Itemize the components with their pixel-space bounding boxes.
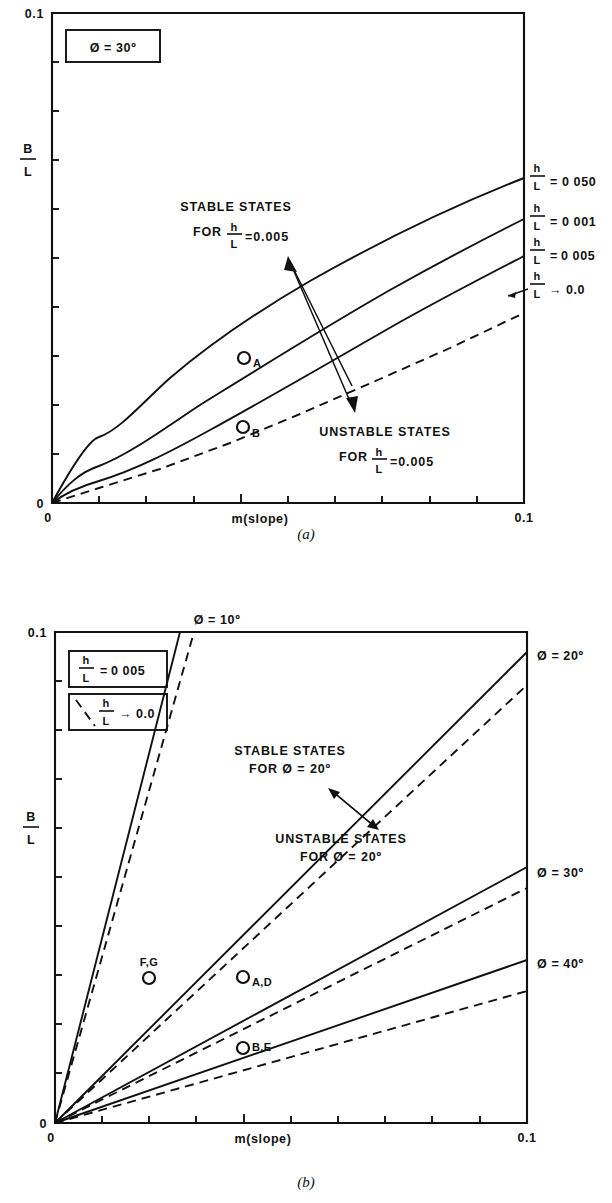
data-point-label-ad: A,D (252, 976, 272, 988)
annot-unstable-den: L (375, 463, 382, 475)
panel-a-annotation-unstable: UNSTABLE STATES FOR h L =0.005 (290, 262, 451, 475)
panel-b-axes (55, 632, 527, 1123)
annot-b-unstable-arrow (332, 791, 374, 826)
legend2-den: L (102, 715, 109, 727)
data-point-marker (237, 1042, 249, 1054)
curve-phi40-solid (55, 960, 527, 1123)
panel-b-curve-label-phi20: Ø = 20º (537, 649, 584, 663)
panel-b-xtick-max: 0.1 (517, 1131, 536, 1145)
curve-label-1-num: h (533, 202, 540, 214)
panel-a-ytick-min: 0 (36, 497, 44, 511)
panel-b-ylabel-den: L (27, 833, 35, 847)
legend2-value: 0.0 (136, 707, 155, 721)
curve-phi10-dashed (55, 632, 194, 1123)
panel-a-annotation-stable: STABLE STATES FOR h L =0.005 (180, 200, 352, 386)
legend2-rel: → (119, 707, 132, 721)
panel-b-ylabel-num: B (26, 810, 36, 824)
panel-a-ytick-max: 0.1 (25, 7, 44, 21)
legend1-num: h (82, 654, 89, 666)
panel-a-x-axis-label: m(slope) (232, 512, 289, 526)
curve-label-3-rel: → (549, 283, 562, 297)
panel-a-legend-phi-label: Ø = 30º (90, 41, 137, 55)
panel-a-point-A: A (238, 352, 261, 369)
panel-a-legend-box: Ø = 30º (66, 30, 160, 62)
panel-a-curve-label-0: h L = 0 050 (530, 162, 596, 192)
panel-a-xtick-max: 0.1 (514, 511, 533, 525)
curve-label-1-rel: = (550, 215, 558, 229)
legend1-value: 0 005 (111, 664, 145, 678)
panel-b-curve-label-phi30: Ø = 30º (537, 866, 584, 880)
panel-a-xtick-min: 0 (44, 511, 52, 525)
annot-b-unstable-line2: FOR Ø = 20º (300, 850, 382, 864)
panel-b-caption: (b) (0, 1174, 612, 1191)
panel-b-legend-box-2: h L → 0.0 (69, 694, 167, 730)
annot-b-stable-line1: STABLE STATES (234, 744, 346, 758)
curve-label-2-den: L (533, 254, 540, 266)
panel-a-y-ticks (52, 13, 61, 454)
data-point-label-b: B (252, 427, 260, 439)
curve-label-2-rel: = (550, 249, 558, 263)
curve-label-2-num: h (533, 236, 540, 248)
data-point-label-be: B,E (252, 1041, 272, 1053)
annot-unstable-num: h (375, 446, 382, 458)
figure-container: 0.1 0 0 0.1 m(slope) B L Ø = 30º (0, 0, 612, 1203)
panel-b-annotation-unstable: UNSTABLE STATES FOR Ø = 20º (275, 791, 407, 864)
curve-label-2-value: 0 005 (561, 249, 595, 263)
annot-unstable-arrow (290, 262, 352, 406)
panel-a-curve-label-1: h L = 0 001 (530, 202, 596, 232)
curve-label-1-den: L (533, 220, 540, 232)
curve-label-3-den: L (533, 288, 540, 300)
annot-unstable-value: =0.005 (390, 455, 434, 469)
panel-a-curves (52, 178, 524, 503)
panel-a-x-ticks (99, 494, 477, 503)
curve-phi30-solid (55, 867, 527, 1123)
panel-b-point-BE: B,E (237, 1041, 272, 1054)
annot-unstable-for: FOR (339, 450, 368, 464)
panel-a-point-B: B (237, 421, 260, 439)
panel-b-ytick-max: 0.1 (28, 626, 47, 640)
annot-b-stable-line2: FOR Ø = 20º (249, 762, 331, 776)
curve-phi30-dashed (55, 888, 527, 1123)
curve-label-0-num: h (533, 162, 540, 174)
panel-b-point-AD: A,D (237, 971, 272, 988)
chart-panel-a: 0.1 0 0 0.1 m(slope) B L Ø = 30º (0, 0, 612, 526)
annot-stable-den: L (230, 238, 237, 250)
panel-a-y-axis-label: B L (20, 142, 36, 179)
legend1-rel: = (100, 664, 108, 678)
panel-b-curve-label-phi10: Ø = 10º (194, 613, 241, 627)
legend2-num: h (102, 697, 109, 709)
data-point-label-fg: F,G (140, 956, 158, 968)
panel-a-curve-label-2: h L = 0 005 (530, 236, 595, 266)
annot-stable-for: FOR (193, 225, 222, 239)
panel-a-caption: (a) (0, 526, 612, 543)
panel-a-curve-label-3: h L → 0.0 (508, 270, 585, 300)
annot-stable-value: =0.005 (245, 230, 289, 244)
curve-label-0-den: L (533, 180, 540, 192)
curve-label-1-value: 0 001 (562, 215, 596, 229)
data-point-marker (237, 421, 249, 433)
panel-b-legend-box-1: h L = 0 005 (69, 651, 167, 687)
curve-label-3-value: 0.0 (566, 283, 585, 297)
chart-panel-b: 0.1 0 0 0.1 m(slope) B L h L = 0 005 h L… (0, 570, 612, 1203)
panel-b-point-FG: F,G (140, 956, 158, 984)
curve-phi10-solid (55, 632, 180, 1123)
panel-b-y-ticks (55, 632, 64, 1073)
curve-phi20-solid (55, 652, 527, 1123)
curve-label-0-value: 0 050 (562, 175, 596, 189)
data-point-marker (143, 972, 155, 984)
data-point-marker (238, 352, 250, 364)
curve-label-3-num: h (533, 270, 540, 282)
panel-b-y-axis-label: B L (23, 810, 39, 847)
panel-b-x-axis-label: m(slope) (235, 1132, 292, 1146)
dashed-line-swatch-icon (76, 700, 95, 726)
annot-b-unstable-line1: UNSTABLE STATES (275, 832, 407, 846)
curve-label-0-rel: = (550, 175, 558, 189)
panel-b-x-ticks (102, 1114, 480, 1123)
data-point-marker (237, 971, 249, 983)
panel-b-ytick-min: 0 (39, 1117, 47, 1131)
panel-b-curves (55, 632, 527, 1123)
axis-lines (55, 632, 527, 1123)
panel-b-xtick-min: 0 (47, 1131, 55, 1145)
panel-a-ylabel-num: B (23, 142, 33, 156)
annot-unstable-line1: UNSTABLE STATES (319, 425, 451, 439)
